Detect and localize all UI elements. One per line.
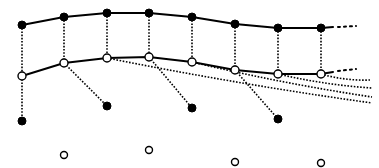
trailing-lines — [107, 58, 372, 103]
top-node — [103, 9, 111, 17]
middle-node — [231, 66, 239, 74]
middle-node — [274, 70, 282, 78]
top-row-continuation — [338, 26, 356, 27]
middle-row-continuation — [338, 69, 356, 71]
lattice-diagram — [0, 0, 379, 168]
bottom-open-node — [232, 159, 239, 166]
bottom-open-node — [146, 147, 153, 154]
bottom-filled-node — [188, 104, 196, 112]
top-node — [18, 21, 26, 29]
nodes — [18, 9, 325, 167]
middle-node — [103, 54, 111, 62]
top-node — [317, 24, 325, 32]
bottom-filled-node — [103, 102, 111, 110]
trailing-line — [321, 74, 370, 80]
top-node — [231, 20, 239, 28]
bottom-filled-node — [18, 117, 26, 125]
middle-node — [145, 53, 153, 61]
top-node — [188, 13, 196, 21]
branch-lines — [22, 57, 278, 121]
middle-node — [60, 59, 68, 67]
bottom-open-node — [318, 160, 325, 167]
middle-node — [18, 72, 26, 80]
top-node — [145, 9, 153, 17]
top-node — [274, 24, 282, 32]
branch-line — [235, 70, 278, 119]
bottom-open-node — [61, 152, 68, 159]
top-node — [60, 13, 68, 21]
middle-node — [317, 70, 325, 78]
bottom-filled-node — [274, 115, 282, 123]
trailing-line — [107, 58, 372, 103]
middle-node — [188, 58, 196, 66]
branch-line — [149, 57, 192, 108]
row-curves — [22, 13, 356, 76]
branch-line — [64, 63, 107, 106]
